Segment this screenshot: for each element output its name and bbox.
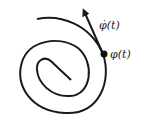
velocity-label: φ̇(t): [99, 19, 120, 32]
spiral-diagram: φ̇(t) φ(t): [0, 0, 141, 138]
point-label: φ(t): [110, 48, 131, 61]
spiral-outer-arc: [37, 18, 103, 54]
spiral-curve: [20, 41, 106, 113]
point-marker: [101, 51, 108, 58]
